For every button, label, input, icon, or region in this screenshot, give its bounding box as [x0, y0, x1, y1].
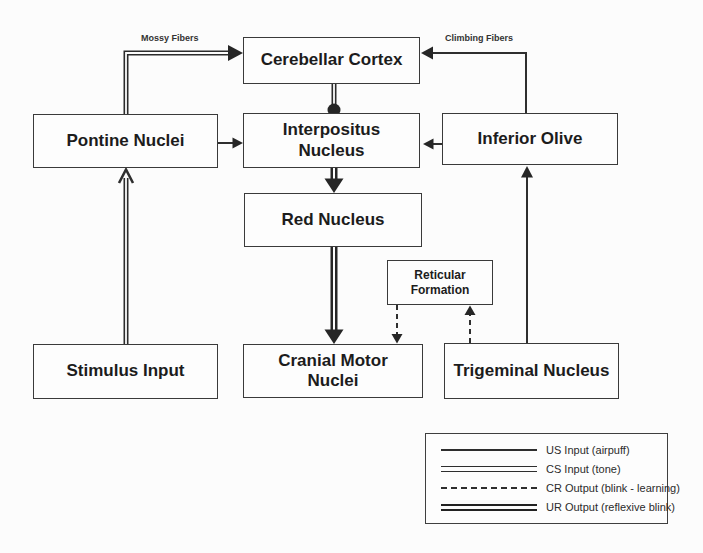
- legend-label-cr: CR Output (blink - learning): [546, 482, 680, 494]
- legend-row-ur: UR Output (reflexive blink): [441, 501, 655, 513]
- node-interpositus-nucleus: Interpositus Nucleus: [243, 113, 420, 168]
- legend-row-cr: CR Output (blink - learning): [441, 482, 655, 494]
- node-inferior-olive: Inferior Olive: [442, 113, 618, 165]
- arrowhead-left-icon: [423, 139, 434, 150]
- arrowhead-down-icon: [392, 334, 403, 344]
- cr-line-sample-icon: [441, 487, 537, 489]
- arrowhead-right-icon: [228, 45, 243, 61]
- edge-trigeminal-to-olive: [521, 166, 533, 343]
- legend-label-cs: CS Input (tone): [546, 463, 621, 475]
- cs-line-sample-icon: [441, 466, 537, 471]
- edge-interpositus-to-red: [325, 168, 344, 193]
- node-pontine-nuclei: Pontine Nuclei: [33, 114, 218, 168]
- edge-trigeminal-to-retform: [465, 306, 476, 344]
- arrowhead-down-icon: [325, 179, 344, 194]
- edge-pontine-to-interpositus: [218, 138, 243, 149]
- node-cerebellar-cortex: Cerebellar Cortex: [243, 37, 420, 84]
- mossy-fibers-label: Mossy Fibers: [141, 33, 199, 43]
- legend-row-us: US Input (airpuff): [441, 444, 655, 456]
- edge-retform-to-cranial: [392, 305, 403, 344]
- arrowhead-up-icon: [465, 306, 476, 316]
- edge-climbing-fibers: [421, 47, 526, 114]
- arrowhead-right-icon: [233, 138, 244, 149]
- node-stimulus-input: Stimulus Input: [33, 344, 218, 399]
- node-cranial-motor-nuclei: Cranial Motor Nuclei: [243, 344, 423, 398]
- edge-cortex-to-interpositus: [328, 84, 341, 117]
- us-line-sample-icon: [441, 449, 537, 451]
- edge-red-to-cranial: [325, 247, 344, 344]
- legend-label-us: US Input (airpuff): [546, 444, 630, 456]
- arrowhead-up-icon: [521, 166, 533, 178]
- node-trigeminal-nucleus: Trigeminal Nucleus: [444, 343, 619, 399]
- eyeblink-conditioning-circuit-diagram: Cerebellar Cortex Pontine Nuclei Interpo…: [0, 0, 703, 553]
- edge-olive-to-interpositus: [423, 139, 442, 150]
- arrowhead-left-icon: [421, 47, 433, 60]
- ur-line-sample-icon: [441, 504, 537, 512]
- legend-label-ur: UR Output (reflexive blink): [546, 501, 675, 513]
- legend-row-cs: CS Input (tone): [441, 463, 655, 475]
- legend-box: US Input (airpuff) CS Input (tone) CR Ou…: [425, 433, 668, 524]
- edge-mossy-fibers: [126, 45, 243, 115]
- node-reticular-formation: Reticular Formation: [387, 260, 493, 305]
- arrowhead-down-icon: [325, 330, 344, 345]
- edge-stimulus-to-pontine: [119, 170, 133, 345]
- climbing-fibers-label: Climbing Fibers: [445, 33, 513, 43]
- node-red-nucleus: Red Nucleus: [244, 193, 422, 247]
